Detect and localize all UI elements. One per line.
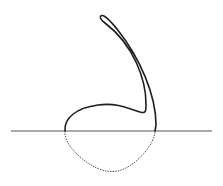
lower-curve	[65, 131, 155, 172]
diagram-canvas	[0, 0, 223, 186]
upper-outline	[65, 15, 156, 131]
